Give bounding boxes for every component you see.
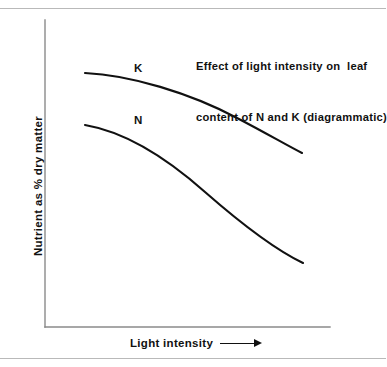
y-axis-label: Nutrient as % dry matter [32,86,44,286]
series-label-k: K [134,62,143,74]
x-axis-label: Light intensity [130,337,213,349]
series-label-n: N [134,114,143,126]
chart-title-line-1: Effect of light intensity on leaf [196,58,387,75]
chart-title: Effect of light intensity on leaf conten… [196,24,387,160]
arrow-right-icon [220,339,262,348]
chart-title-line-2: content of N and K (diagrammatic) [196,109,387,126]
x-axis-label-group: Light intensity [130,337,262,349]
